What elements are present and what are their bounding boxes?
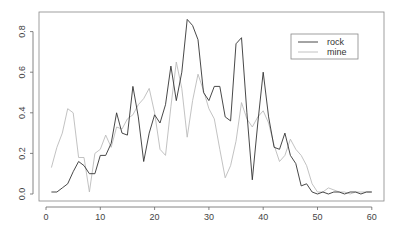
y-tick-label: 0.6 bbox=[17, 66, 27, 79]
x-tick-label: 30 bbox=[204, 212, 214, 222]
line-chart: 0.00.20.40.60.8 0102030405060 rock mine bbox=[0, 0, 405, 230]
legend: rock mine bbox=[291, 34, 358, 59]
x-tick-label: 40 bbox=[258, 212, 268, 222]
legend-label-rock: rock bbox=[327, 37, 345, 47]
y-axis: 0.00.20.40.60.8 bbox=[17, 25, 33, 200]
y-tick-label: 0.8 bbox=[17, 25, 27, 38]
series-mine-line bbox=[51, 62, 371, 194]
y-tick-label: 0.0 bbox=[17, 188, 27, 201]
legend-label-mine: mine bbox=[327, 47, 347, 57]
x-tick-label: 50 bbox=[312, 212, 322, 222]
x-tick-label: 60 bbox=[367, 212, 377, 222]
y-tick-label: 0.4 bbox=[17, 107, 27, 120]
legend-box bbox=[291, 34, 358, 59]
x-tick-label: 0 bbox=[43, 212, 48, 222]
x-axis: 0102030405060 bbox=[43, 207, 376, 222]
x-tick-label: 20 bbox=[150, 212, 160, 222]
y-tick-label: 0.2 bbox=[17, 147, 27, 160]
x-tick-label: 10 bbox=[95, 212, 105, 222]
